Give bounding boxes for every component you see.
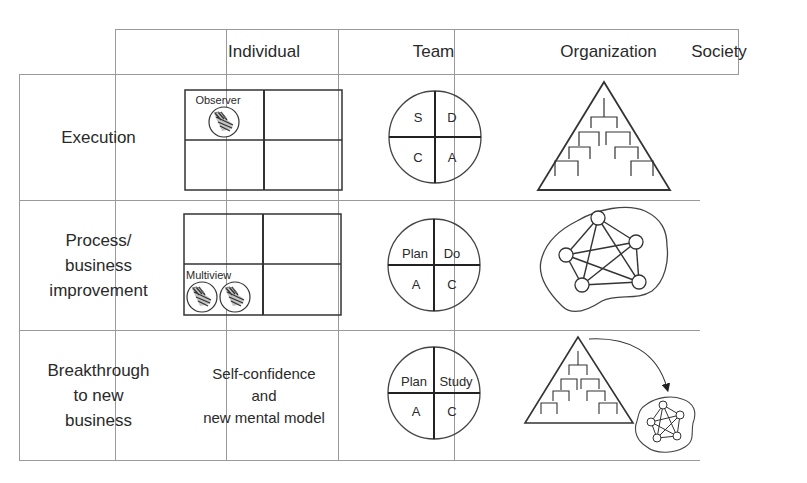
individual-breakthrough-text: Self-confidence and new mental model — [178, 331, 350, 460]
cycle-quadrant-label: D — [447, 110, 456, 125]
row-label-line: improvement — [49, 278, 147, 303]
individual-quadrant-grid-observer: Observer — [178, 75, 350, 200]
multiview-caption: Multiview — [186, 269, 231, 281]
row-label-breakthrough: Breakthrough to new business — [19, 331, 178, 460]
organization-hierarchy-pyramid — [517, 75, 700, 200]
cycle-quadrant-label: Plan — [402, 246, 428, 261]
individual-quadrant-grid-multiview: Multiview — [178, 201, 350, 330]
column-header-organization: Organization — [517, 30, 700, 74]
grid-line — [19, 460, 700, 461]
network-icon — [635, 397, 694, 452]
network-icon — [540, 207, 667, 311]
cycle-quadrant-label: C — [413, 150, 422, 165]
observer-icon — [209, 107, 239, 137]
row-label-line: Breakthrough — [47, 358, 149, 383]
row-label-process-improvement: Process/ business improvement — [19, 201, 178, 330]
text-line: new mental model — [203, 407, 325, 429]
row-label-line: to new — [47, 383, 149, 408]
cycle-quadrant-label: Do — [444, 246, 461, 261]
pyramid-icon — [525, 337, 633, 423]
column-header-individual: Individual — [178, 30, 350, 74]
cycle-quadrant-label: A — [412, 277, 421, 292]
column-header-team: Team — [350, 30, 517, 74]
team-cycle-psac: Plan Study A C — [350, 331, 517, 460]
cycle-quadrant-label: Plan — [401, 374, 427, 389]
column-header-society: Society — [700, 30, 738, 74]
text-line: Self-confidence — [203, 363, 325, 385]
team-cycle-pdca: Plan Do A C — [350, 201, 517, 330]
observer-icon — [187, 282, 217, 312]
cycle-quadrant-label: Study — [439, 374, 473, 389]
pyramid-icon — [538, 82, 670, 190]
row-label-line: business — [47, 408, 149, 433]
cycle-quadrant-label: S — [414, 110, 423, 125]
row-label-line: business — [49, 253, 147, 278]
row-label-line: Execution — [61, 125, 136, 150]
row-label-execution: Execution — [19, 75, 178, 200]
text-line: and — [203, 385, 325, 407]
organization-pyramid-to-network — [517, 331, 700, 460]
cycle-quadrant-label: C — [447, 404, 456, 419]
observer-icon — [220, 282, 250, 312]
row-label-line: Process/ — [49, 228, 147, 253]
organization-network — [517, 201, 700, 330]
transition-arrow — [589, 339, 667, 388]
team-cycle-sdca: S D C A — [350, 75, 517, 200]
observer-caption: Observer — [195, 94, 241, 106]
cycle-quadrant-label: A — [448, 150, 457, 165]
cycle-quadrant-label: A — [412, 404, 421, 419]
cycle-quadrant-label: C — [447, 277, 456, 292]
